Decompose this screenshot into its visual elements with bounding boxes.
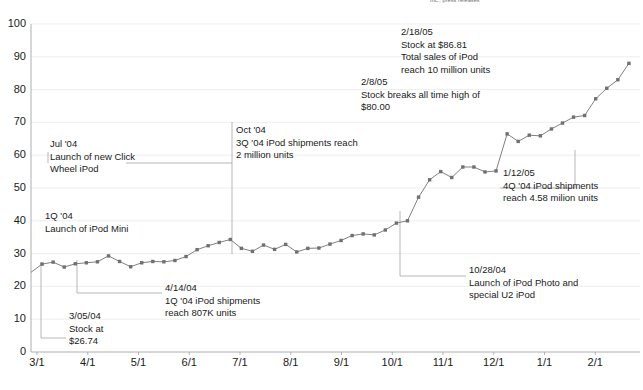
x-axis-tick-label: 6/1 <box>169 356 209 368</box>
stock-chart: Inc., press releases 0102030405060708090… <box>0 0 643 390</box>
data-point-marker <box>173 259 176 262</box>
annotation-apr14-04-1q-shipments: 4/14/041Q '04 iPod shipmentsreach 807K u… <box>165 282 260 320</box>
data-point-marker <box>251 250 254 253</box>
annotation-line: Launch of new Click <box>50 151 135 164</box>
data-point-marker <box>151 260 154 263</box>
x-axis-tick-label: 1/1 <box>525 356 565 368</box>
annotation-line: 2 million units <box>236 149 358 162</box>
annotation-line: 1Q '04 <box>45 210 128 223</box>
data-point-marker <box>472 165 475 168</box>
annotation-oct04-3q-shipments: Oct '043Q '04 iPod shipments reach2 mill… <box>236 124 358 162</box>
data-point-marker <box>517 140 520 143</box>
annotation-jul04-click-wheel: Jul '04Launch of new ClickWheel iPod <box>50 138 135 176</box>
data-point-marker <box>461 165 464 168</box>
annotation-line: reach 807K units <box>165 307 260 320</box>
y-axis-tick-label: 100 <box>0 17 26 29</box>
data-point-marker <box>129 265 132 268</box>
data-point-marker <box>528 133 531 136</box>
data-point-marker <box>594 97 597 100</box>
annotation-line: 2/18/05 <box>401 26 490 39</box>
y-axis-tick-label: 10 <box>0 312 26 324</box>
y-axis-tick-label: 90 <box>0 50 26 62</box>
annotation-line: Total sales of iPod <box>401 51 490 64</box>
annotation-line: reach 4.58 milion units <box>503 192 598 205</box>
data-point-marker <box>284 243 287 246</box>
data-point-marker <box>206 244 209 247</box>
data-point-marker <box>428 178 431 181</box>
annotation-line: $80.00 <box>361 101 480 114</box>
annotation-oct28-04-ipod-photo: 10/28/04Launch of iPod Photo andspecial … <box>469 264 578 302</box>
data-point-marker <box>539 134 542 137</box>
annotation-feb18-05-10-million: 2/18/05Stock at $86.81Total sales of iPo… <box>401 26 490 76</box>
x-axis-tick-label: 12/1 <box>474 356 514 368</box>
data-point-marker <box>162 260 165 263</box>
data-point-marker <box>85 261 88 264</box>
y-axis-tick-label: 20 <box>0 279 26 291</box>
y-axis-tick-label: 30 <box>0 247 26 259</box>
annotation-line: Launch of iPod Mini <box>45 223 128 236</box>
data-point-marker <box>350 234 353 237</box>
x-axis-tick-label: 2/1 <box>575 356 615 368</box>
annotation-line: 10/28/04 <box>469 264 578 277</box>
data-point-marker <box>583 114 586 117</box>
data-point-marker <box>96 260 99 263</box>
y-axis-tick-label: 40 <box>0 214 26 226</box>
data-point-marker <box>195 248 198 251</box>
annotation-line: reach 10 million units <box>401 64 490 77</box>
data-point-marker <box>317 246 320 249</box>
annotation-feb08-05-all-time-high: 2/8/05Stock breaks all time high of$80.0… <box>361 76 480 114</box>
y-axis-tick-label: 60 <box>0 148 26 160</box>
data-point-marker <box>450 176 453 179</box>
x-axis-tick-label: 5/1 <box>119 356 159 368</box>
data-point-marker <box>63 265 66 268</box>
data-point-marker <box>494 169 497 172</box>
y-axis-tick-label: 50 <box>0 181 26 193</box>
data-point-marker <box>184 255 187 258</box>
data-point-marker <box>627 62 630 65</box>
data-point-marker <box>118 260 121 263</box>
data-point-marker <box>51 260 54 263</box>
data-point-marker <box>561 121 564 124</box>
data-point-marker <box>339 239 342 242</box>
data-point-marker <box>218 241 221 244</box>
data-point-marker <box>572 115 575 118</box>
annotation-line: Stock at $86.81 <box>401 39 490 52</box>
annotation-line: 4Q '04 iPod shipments <box>503 180 598 193</box>
data-point-marker <box>417 195 420 198</box>
annotation-line: 1Q '04 iPod shipments <box>165 295 260 308</box>
annotation-line: Stock at <box>69 323 103 336</box>
x-axis-tick-label: 10/1 <box>372 356 412 368</box>
x-axis-tick-label: 8/1 <box>271 356 311 368</box>
annotation-line: 1/12/05 <box>503 167 598 180</box>
annotation-line: special U2 iPod <box>469 289 578 302</box>
annotation-mar05-04-stock: 3/05/04Stock at$26.74 <box>69 310 103 348</box>
x-axis-tick-label: 3/1 <box>17 356 57 368</box>
x-axis-tick-label: 11/1 <box>423 356 463 368</box>
data-point-marker <box>74 262 77 265</box>
data-point-marker <box>295 250 298 253</box>
data-point-marker <box>373 233 376 236</box>
annotation-1q04-ipod-mini: 1Q '04Launch of iPod Mini <box>45 210 128 235</box>
annotation-line: Launch of iPod Photo and <box>469 277 578 290</box>
data-point-marker <box>616 78 619 81</box>
y-axis-tick-label: 80 <box>0 83 26 95</box>
x-axis-tick-label: 4/1 <box>68 356 108 368</box>
data-point-marker <box>406 219 409 222</box>
annotation-line: Stock breaks all time high of <box>361 89 480 102</box>
annotation-line: Jul '04 <box>50 138 135 151</box>
annotation-line: $26.74 <box>69 335 103 348</box>
annotation-line: 4/14/04 <box>165 282 260 295</box>
data-point-marker <box>107 254 110 257</box>
annotation-line: 3/05/04 <box>69 310 103 323</box>
data-point-marker <box>483 170 486 173</box>
data-point-marker <box>505 132 508 135</box>
data-point-marker <box>306 247 309 250</box>
y-axis-tick-label: 70 <box>0 115 26 127</box>
data-point-marker <box>328 242 331 245</box>
data-point-marker <box>384 228 387 231</box>
data-point-marker <box>240 247 243 250</box>
data-point-marker <box>273 248 276 251</box>
x-axis-tick-label: 7/1 <box>220 356 260 368</box>
annotation-line: 2/8/05 <box>361 76 480 89</box>
annotation-line: Oct '04 <box>236 124 358 137</box>
